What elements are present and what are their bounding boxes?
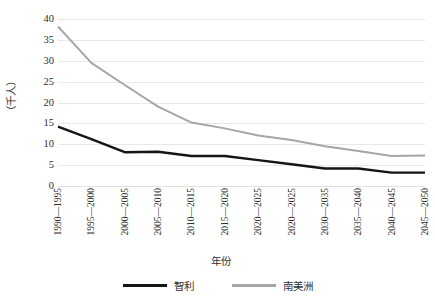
x-axis-tick: 2030—2035: [319, 188, 331, 250]
x-axis-tick-label: 2000—2005: [119, 188, 130, 236]
line-chart: （千人） 4035302520151050 1990—19951995—2000…: [0, 0, 435, 307]
x-axis-tick: 2020—2025: [252, 188, 264, 250]
y-axis-tick-label: 0: [28, 181, 54, 191]
legend-line-swatch-icon: [232, 284, 276, 287]
x-axis-tick-label: 2005—2010: [153, 188, 164, 236]
x-axis-tick-label: 2045—2050: [420, 188, 431, 236]
x-axis-tick: 1990—1995: [52, 188, 64, 250]
y-axis-tick-label: 35: [28, 35, 54, 45]
series-layer: [58, 19, 425, 186]
y-axis-tick-label: 25: [28, 77, 54, 87]
y-axis-tick-labels: 4035302520151050: [28, 19, 54, 186]
chart-legend: 智利南美洲: [0, 278, 435, 293]
x-axis-tick-label: 2020—2025: [286, 188, 297, 236]
x-axis-tick-label: 2020—2025: [253, 188, 264, 236]
x-axis-tick: 2000—2005: [119, 188, 131, 250]
x-axis-tick: 2010—2015: [185, 188, 197, 250]
x-axis-tick-label: 2040—2045: [386, 188, 397, 236]
x-axis-tick-label: 2035—2040: [353, 188, 364, 236]
x-axis-title: 年份: [0, 253, 435, 268]
x-axis-tick-labels: 1990—19951995—20002000—20052005—20102010…: [58, 188, 425, 250]
x-axis-tick-label: 1995—2000: [86, 188, 97, 236]
legend-label: 南美洲: [283, 278, 313, 293]
legend-item[interactable]: 南美洲: [232, 278, 313, 293]
x-axis-tick: 2040—2045: [386, 188, 398, 250]
series-line: [58, 27, 425, 156]
y-axis-tick-label: 5: [28, 160, 54, 170]
x-axis-tick-label: 2015—2020: [219, 188, 230, 236]
x-axis-tick-label: 2010—2015: [186, 188, 197, 236]
x-axis-tick-label: 1990—1995: [53, 188, 64, 236]
x-axis-tick: 2045—2050: [419, 188, 431, 250]
x-axis-tick: 2005—2010: [152, 188, 164, 250]
y-axis-tick-label: 15: [28, 118, 54, 128]
x-axis-tick: 2035—2040: [352, 188, 364, 250]
y-axis-title: （千人）: [3, 46, 18, 146]
x-axis-tick-label: 2030—2035: [319, 188, 330, 236]
x-axis-tick: 1995—2000: [85, 188, 97, 250]
legend-line-swatch-icon: [123, 284, 167, 287]
y-axis-tick-label: 30: [28, 56, 54, 66]
y-axis-tick-label: 20: [28, 98, 54, 108]
x-axis-title-text: 年份: [205, 256, 231, 267]
x-axis-tick: 2015—2020: [219, 188, 231, 250]
x-axis-tick: 2020—2025: [286, 188, 298, 250]
legend-label: 智利: [174, 278, 194, 293]
legend-item[interactable]: 智利: [123, 278, 194, 293]
y-axis-tick-label: 40: [28, 14, 54, 24]
gridline: [58, 186, 425, 187]
plot-area: [58, 19, 425, 186]
series-line: [58, 127, 425, 173]
y-axis-tick-label: 10: [28, 139, 54, 149]
